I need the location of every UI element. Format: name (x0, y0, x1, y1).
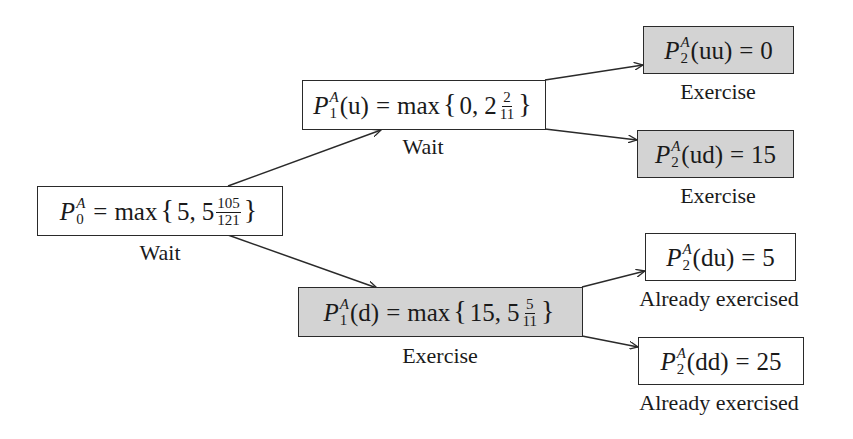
formula-p2uu: P A 2 (uu) = 0 (664, 34, 773, 66)
sup-sub: A 1 (330, 90, 339, 122)
denominator: 121 (216, 213, 241, 229)
sup-sub: A 0 (76, 196, 85, 228)
subscript: 2 (677, 362, 685, 378)
formula-p2du: P A 2 (du) = 5 (666, 241, 775, 273)
node-p1u: P A 1 (u) = max { 0 , 2 2 11 } (302, 80, 546, 130)
left-brace: { (160, 196, 173, 224)
superscript: A (682, 242, 691, 258)
payoff-value: 25 (757, 349, 782, 374)
superscript: A (76, 196, 85, 212)
equals: = (741, 245, 755, 270)
superscript: A (680, 35, 689, 51)
continuation-fraction: 105 121 (216, 196, 241, 229)
exercise-value: 5 (177, 199, 190, 224)
sup-sub: A 2 (680, 35, 689, 67)
superscript: A (671, 139, 680, 155)
continuation-whole: 2 (484, 93, 497, 118)
payoff-value: 5 (762, 245, 775, 270)
state-arg: (ud) (681, 142, 723, 167)
right-brace: } (518, 90, 531, 118)
var-p: P (60, 199, 75, 224)
var-p: P (664, 38, 679, 63)
edge-p0-p1u (228, 130, 381, 186)
sup-sub: A 1 (340, 297, 349, 329)
equals: = (739, 38, 753, 63)
node-p2dd: P A 2 (dd) = 25 (638, 337, 804, 385)
edge-p1u-p2uu (545, 65, 643, 80)
right-brace: } (541, 297, 554, 325)
decision-p2ud: Exercise (680, 183, 756, 209)
exercise-value: 0 (460, 93, 473, 118)
decision-p1d: Exercise (402, 343, 478, 369)
payoff-value: 0 (760, 38, 773, 63)
comma: , (189, 199, 195, 224)
var-p: P (655, 142, 670, 167)
subscript: 1 (330, 106, 338, 122)
superscript: A (677, 346, 686, 362)
numerator: 105 (216, 196, 241, 213)
exercise-value: 15 (470, 300, 495, 325)
formula-p2ud: P A 2 (ud) = 15 (655, 138, 776, 170)
superscript: A (340, 297, 349, 313)
subscript: 0 (76, 212, 84, 228)
sup-sub: A 2 (677, 346, 686, 378)
left-brace: { (443, 90, 456, 118)
formula-p0: P A 0 = max { 5 , 5 105 121 } (60, 195, 260, 228)
subscript: 2 (682, 258, 690, 274)
var-p: P (666, 245, 681, 270)
comma: , (472, 93, 478, 118)
max-operator: max (407, 300, 450, 325)
subscript: 2 (680, 51, 688, 67)
denominator: 11 (522, 314, 538, 330)
right-brace: } (244, 196, 257, 224)
equals: = (736, 349, 750, 374)
node-p0: P A 0 = max { 5 , 5 105 121 } (37, 186, 283, 236)
var-p: P (313, 93, 328, 118)
left-brace: { (453, 297, 466, 325)
var-p: P (324, 300, 339, 325)
subscript: 1 (340, 313, 348, 329)
decision-p1u: Wait (403, 134, 444, 160)
max-operator: max (114, 199, 157, 224)
payoff-value: 15 (751, 142, 776, 167)
edge-p1u-p2ud (545, 129, 637, 140)
node-p1d: P A 1 (d) = max { 15 , 5 5 11 } (298, 287, 583, 337)
sup-sub: A 2 (682, 242, 691, 274)
denominator: 11 (499, 107, 515, 123)
edge-p1d-p2dd (582, 336, 638, 347)
state-arg: (du) (693, 245, 735, 270)
state-arg: (uu) (691, 38, 733, 63)
subscript: 2 (671, 155, 679, 171)
superscript: A (330, 90, 339, 106)
decision-p2du: Already exercised (639, 286, 798, 312)
state-arg: (d) (350, 300, 379, 325)
formula-p1d: P A 1 (d) = max { 15 , 5 5 11 } (324, 296, 558, 329)
equals: = (376, 93, 390, 118)
decision-p0: Wait (140, 240, 181, 266)
state-arg: (u) (340, 93, 369, 118)
var-p: P (660, 349, 675, 374)
equals: = (93, 199, 107, 224)
continuation-whole: 5 (202, 199, 215, 224)
node-p2uu: P A 2 (uu) = 0 (643, 26, 794, 74)
edge-p0-p1d (228, 235, 377, 288)
formula-p1u: P A 1 (u) = max { 0 , 2 2 11 } (313, 89, 534, 122)
state-arg: (dd) (687, 349, 729, 374)
equals: = (386, 300, 400, 325)
decision-p2uu: Exercise (680, 79, 756, 105)
decision-p2dd: Already exercised (639, 390, 798, 416)
formula-p2dd: P A 2 (dd) = 25 (660, 345, 781, 377)
sup-sub: A 2 (671, 139, 680, 171)
max-operator: max (397, 93, 440, 118)
numerator: 2 (502, 90, 512, 107)
comma: , (495, 300, 501, 325)
equals: = (730, 142, 744, 167)
node-p2ud: P A 2 (ud) = 15 (637, 130, 794, 178)
numerator: 5 (525, 297, 535, 314)
continuation-fraction: 2 11 (499, 90, 515, 123)
edge-p1d-p2du (582, 271, 645, 287)
continuation-whole: 5 (507, 300, 520, 325)
continuation-fraction: 5 11 (522, 297, 538, 330)
node-p2du: P A 2 (du) = 5 (645, 233, 796, 281)
